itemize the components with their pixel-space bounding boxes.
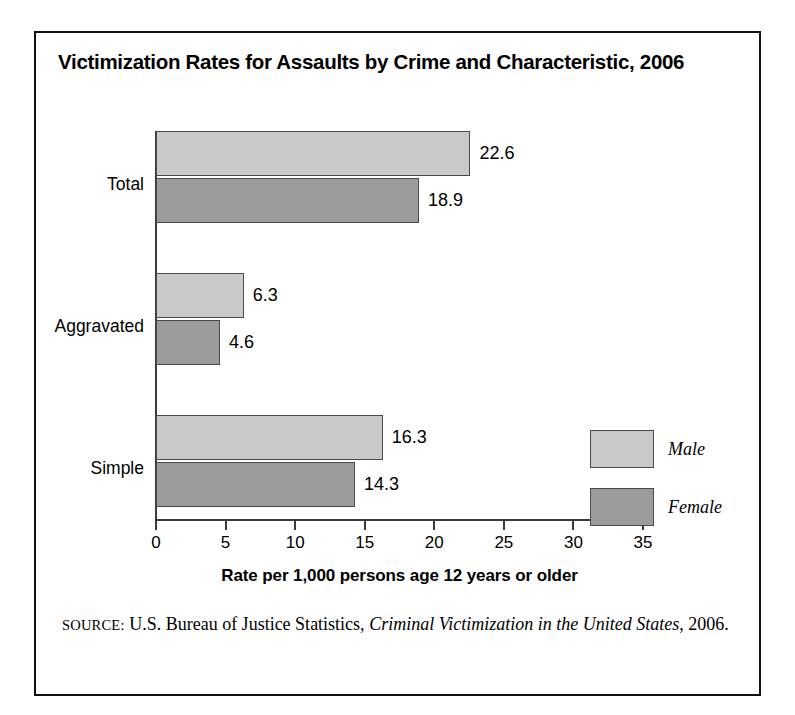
- bar-aggravated-male: [156, 273, 244, 318]
- x-tick-mark-5: [225, 521, 227, 530]
- bar-value-simple-male: 16.3: [392, 427, 427, 448]
- x-tick-label-35: 35: [634, 533, 653, 553]
- x-tick-label-15: 15: [355, 533, 374, 553]
- bar-simple-male: [156, 415, 383, 460]
- x-tick-mark-25: [503, 521, 505, 530]
- bar-simple-female: [156, 462, 355, 507]
- bar-value-aggravated-female: 4.6: [229, 332, 254, 353]
- source-note: SOURCE: U.S. Bureau of Justice Statistic…: [62, 613, 732, 637]
- bar-total-male: [156, 131, 470, 176]
- x-tick-label-20: 20: [425, 533, 444, 553]
- legend-label-female: Female: [668, 497, 722, 518]
- bar-value-total-female: 18.9: [428, 190, 463, 211]
- bar-value-total-male: 22.6: [479, 143, 514, 164]
- x-tick-label-25: 25: [494, 533, 513, 553]
- source-publication-title: Criminal Victimization in the United Sta…: [369, 614, 679, 634]
- x-tick-label-30: 30: [564, 533, 583, 553]
- x-tick-mark-30: [572, 521, 574, 530]
- plot-area: 05101520253035 TotalAggravatedSimple 22.…: [36, 125, 759, 565]
- x-tick-label-0: 0: [151, 533, 160, 553]
- x-tick-mark-0: [155, 521, 157, 530]
- x-tick-label-10: 10: [286, 533, 305, 553]
- category-label-aggravated: Aggravated: [36, 316, 144, 337]
- source-label: SOURCE:: [62, 617, 125, 633]
- bar-aggravated-female: [156, 320, 220, 365]
- chart-title: Victimization Rates for Assaults by Crim…: [58, 50, 738, 74]
- x-axis-line: [155, 519, 644, 521]
- x-tick-mark-10: [294, 521, 296, 530]
- bar-value-aggravated-male: 6.3: [253, 285, 278, 306]
- legend-swatch-female: [590, 488, 654, 526]
- category-label-total: Total: [36, 174, 144, 195]
- category-label-simple: Simple: [36, 458, 144, 479]
- source-text-after: , 2006.: [679, 614, 729, 634]
- legend-label-male: Male: [668, 439, 705, 460]
- legend-swatch-male: [590, 430, 654, 468]
- x-tick-label-5: 5: [221, 533, 230, 553]
- figure-frame: Victimization Rates for Assaults by Crim…: [34, 31, 761, 696]
- x-axis-title: Rate per 1,000 persons age 12 years or o…: [155, 566, 644, 586]
- x-tick-mark-15: [364, 521, 366, 530]
- x-tick-mark-20: [433, 521, 435, 530]
- bar-value-simple-female: 14.3: [364, 474, 399, 495]
- bar-total-female: [156, 178, 419, 223]
- source-text-before: U.S. Bureau of Justice Statistics,: [125, 614, 369, 634]
